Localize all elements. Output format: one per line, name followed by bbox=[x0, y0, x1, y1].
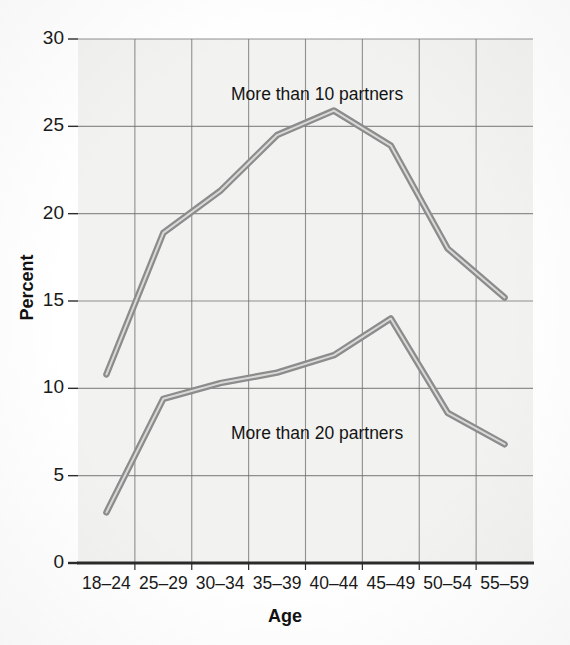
y-tick-label: 0 bbox=[20, 551, 64, 573]
y-tick-label: 25 bbox=[20, 114, 64, 136]
series-label: More than 20 partners bbox=[231, 423, 403, 444]
y-tick-label: 10 bbox=[20, 376, 64, 398]
x-tick-label: 55–59 bbox=[470, 573, 540, 594]
y-tick-label: 20 bbox=[20, 202, 64, 224]
x-axis-title: Age bbox=[0, 606, 570, 627]
chart-figure: 051015202530 18–2425–2930–3435–3940–4445… bbox=[0, 0, 570, 645]
gridlines bbox=[78, 39, 533, 563]
y-tick-label: 5 bbox=[20, 464, 64, 486]
series-label: More than 10 partners bbox=[231, 84, 403, 105]
y-tick-label: 30 bbox=[20, 27, 64, 49]
y-axis-title: Percent bbox=[17, 238, 38, 338]
